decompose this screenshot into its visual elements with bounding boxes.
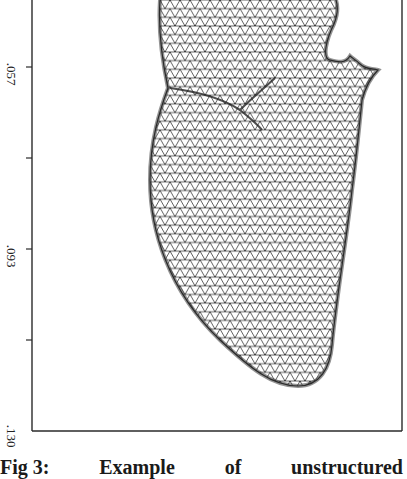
caption-word-1: Example [99,456,175,479]
caption-word-3: unstructured [291,456,403,479]
y-ticks [26,67,32,340]
figure-caption: Fig 3: Example of unstructured [0,456,407,479]
caption-word-2: of [225,456,242,479]
triangular-mesh [140,0,380,390]
y-tick-label-130: .130 [3,425,19,448]
y-tick-label-057: .057 [3,63,19,86]
y-tick-label-093: .093 [3,245,19,268]
caption-label: Fig 3: [0,456,49,479]
